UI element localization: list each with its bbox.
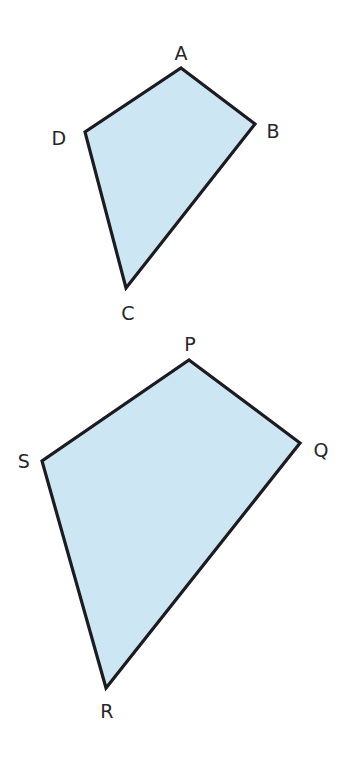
vertex-label-c: C xyxy=(121,304,134,323)
vertex-label-s: S xyxy=(18,452,30,471)
vertex-label-d: D xyxy=(52,129,67,148)
vertex-label-r: R xyxy=(100,702,113,721)
geometry-canvas xyxy=(0,0,349,762)
vertex-label-b: B xyxy=(266,122,279,141)
vertex-label-q: Q xyxy=(313,441,328,460)
vertex-label-p: P xyxy=(184,335,196,354)
geometry-figure: A B C D P Q R S xyxy=(0,0,349,762)
vertex-label-a: A xyxy=(174,44,187,63)
